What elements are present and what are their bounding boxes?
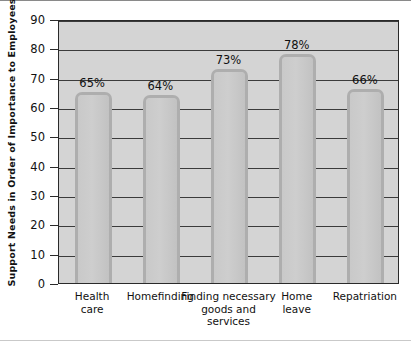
y-axis-tick (50, 196, 58, 197)
bar-value-label: 73% (199, 53, 259, 67)
bar-fill (214, 72, 245, 283)
x-axis-label-line: care (81, 303, 104, 315)
bar (211, 69, 248, 283)
x-axis-label-line: services (207, 315, 250, 327)
bar-value-label: 65% (62, 76, 122, 90)
bar-fill (146, 98, 177, 283)
bar-fill (350, 92, 381, 283)
x-axis-label: Healthcare (53, 290, 131, 315)
bar-value-label: 78% (267, 38, 327, 52)
y-axis-tick (50, 167, 58, 168)
x-axis-label-line: Health (75, 290, 109, 302)
bar-value-label: 64% (130, 79, 190, 93)
y-axis-tick (50, 137, 58, 138)
x-axis-label: Homeleave (258, 290, 336, 315)
y-axis-tick-label: 50 (0, 137, 45, 138)
y-axis-tick-label: 70 (0, 79, 45, 80)
x-axis-label-line: Home (281, 290, 312, 302)
y-axis-tick (50, 255, 58, 256)
x-axis-label-line: goods and (201, 303, 256, 315)
y-axis-tick-label: 0 (0, 284, 45, 285)
gridline (59, 50, 398, 51)
bar (143, 95, 180, 283)
y-axis-tick-label: 60 (0, 108, 45, 109)
chart-figure: Support Needs in Order of Importance to … (0, 0, 411, 341)
y-axis-tick (50, 284, 58, 285)
y-axis-tick (50, 108, 58, 109)
y-axis-tick (50, 20, 58, 21)
y-axis-tick-label: 90 (0, 20, 45, 21)
y-axis-tick-label: 20 (0, 225, 45, 226)
x-axis-label-line: leave (282, 303, 311, 315)
y-axis-tick (50, 225, 58, 226)
x-axis-label-line: Repatriation (333, 290, 397, 302)
y-axis-tick-label: 40 (0, 167, 45, 168)
bar (75, 92, 112, 283)
bar-value-label: 66% (335, 73, 395, 87)
bar (279, 54, 316, 283)
y-axis-tick-label: 80 (0, 49, 45, 50)
bar (347, 89, 384, 283)
y-axis-title: Support Needs in Order of Importance to … (6, 27, 17, 287)
y-axis-tick (50, 49, 58, 50)
gridline (59, 21, 398, 22)
bar-fill (282, 57, 313, 283)
x-axis-label: Repatriation (326, 290, 404, 303)
y-axis-tick-label: 30 (0, 196, 45, 197)
y-axis-tick (50, 79, 58, 80)
y-axis-tick-label: 10 (0, 255, 45, 256)
bar-fill (78, 95, 109, 283)
